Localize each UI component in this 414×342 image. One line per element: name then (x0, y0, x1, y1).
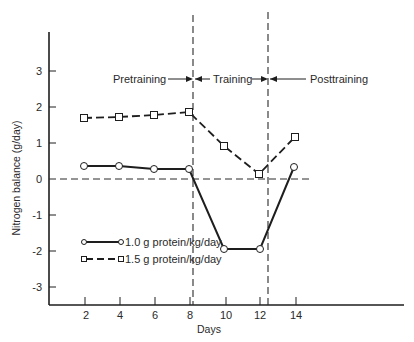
y-tick-label: -3 (32, 281, 42, 293)
square-marker-icon (82, 257, 87, 262)
phase-label-posttraining: Posttraining (310, 73, 368, 85)
x-axis-label: Days (197, 323, 221, 335)
circle-marker (257, 246, 264, 253)
x-tick-label: 10 (220, 309, 232, 321)
circle-marker-icon (82, 240, 87, 245)
circle-marker (116, 163, 123, 170)
legend-item-1-0g: 1.0 g protein/kg/day (82, 236, 223, 248)
square-marker (186, 109, 193, 116)
square-marker (81, 115, 88, 122)
circle-marker-icon (119, 240, 124, 245)
square-marker (256, 171, 263, 178)
circle-marker (186, 166, 193, 173)
x-tick-labels: 2 4 6 8 10 12 14 (83, 309, 302, 321)
square-marker (116, 114, 123, 121)
y-tick-label: 3 (36, 65, 42, 77)
y-tick-labels: 3 2 1 0 -1 -2 -3 (32, 65, 42, 293)
phase-label-pretraining: Pretraining (113, 73, 166, 85)
phase-annotations: Pretraining Training Posttraining (113, 73, 368, 85)
y-axis-label: Nitrogen balance (g/day) (10, 121, 22, 236)
x-tick-label: 4 (117, 309, 123, 321)
square-marker (221, 143, 228, 150)
x-tick-label: 14 (290, 309, 302, 321)
legend-label: 1.5 g protein/kg/day (125, 253, 222, 265)
legend: 1.0 g protein/kg/day 1.5 g protein/kg/da… (82, 236, 223, 265)
phase-label-training: Training (213, 73, 252, 85)
x-tick-label: 8 (187, 309, 193, 321)
x-tick-label: 12 (254, 309, 266, 321)
circle-marker (291, 164, 298, 171)
legend-item-1-5g: 1.5 g protein/kg/day (82, 253, 223, 265)
x-tick-label: 6 (152, 309, 158, 321)
y-tick-label: 2 (36, 101, 42, 113)
y-tick-label: -2 (32, 245, 42, 257)
legend-label: 1.0 g protein/kg/day (125, 236, 222, 248)
y-tick-label: 1 (36, 137, 42, 149)
circle-marker (151, 166, 158, 173)
y-tick-label: 0 (36, 173, 42, 185)
square-marker-icon (119, 257, 124, 262)
x-ticks (85, 297, 296, 305)
circle-marker (81, 163, 88, 170)
chart: 3 2 1 0 -1 -2 -3 2 4 6 8 10 12 14 Days N… (0, 0, 414, 342)
x-tick-label: 2 (83, 309, 89, 321)
square-marker (151, 112, 158, 119)
y-tick-label: -1 (32, 209, 42, 221)
square-marker (292, 134, 299, 141)
